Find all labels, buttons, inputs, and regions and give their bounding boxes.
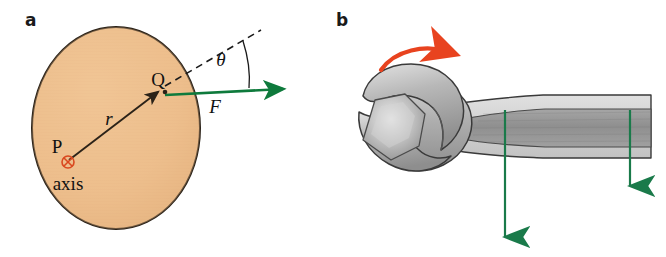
label-radius-r: r — [105, 108, 113, 129]
label-angle-theta: θ — [216, 49, 225, 70]
angle-theta-arc — [243, 41, 249, 88]
physics-torque-figure: a — [0, 0, 666, 257]
panel-a-graphic: P axis Q r F θ — [0, 0, 333, 257]
label-point-p: P — [52, 136, 63, 157]
panel-b-graphic — [333, 0, 666, 257]
label-axis: axis — [53, 173, 84, 194]
label-point-q: Q — [151, 69, 165, 90]
point-q-dot — [163, 90, 168, 95]
panel-b: b — [333, 0, 666, 257]
radius-extension-dashed-line — [165, 30, 261, 86]
panel-a: a — [0, 0, 333, 257]
label-force-f: F — [208, 96, 221, 117]
rigid-body-disk-texture — [32, 27, 200, 229]
